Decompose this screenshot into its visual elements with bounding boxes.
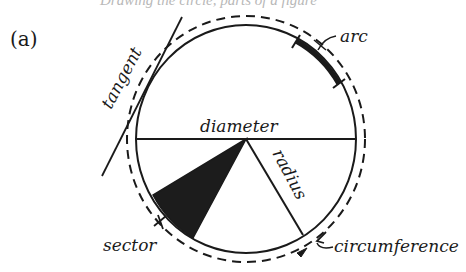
arc-highlight bbox=[296, 41, 339, 84]
cut-off-caption-text: Drawing the circle, parts of a figure bbox=[99, 0, 317, 8]
circumference-label: circumference bbox=[334, 236, 459, 256]
diameter-label: diameter bbox=[200, 116, 279, 136]
arc-label: arc bbox=[340, 26, 368, 46]
circumference-arrow-icons bbox=[297, 232, 326, 257]
sector-label: sector bbox=[103, 235, 157, 255]
radius-label: radius bbox=[268, 145, 311, 203]
sector-wedge bbox=[153, 139, 246, 238]
panel-label: (a) bbox=[10, 27, 38, 51]
sector-tick-mark bbox=[154, 215, 166, 229]
circumference-leader bbox=[317, 243, 333, 248]
circle-parts-diagram: Drawing the circle, parts of a figure (a… bbox=[0, 0, 466, 272]
